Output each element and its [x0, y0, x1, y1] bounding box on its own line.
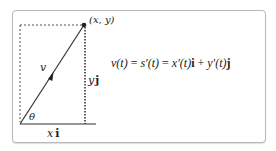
vector-label: v — [40, 61, 47, 74]
x-component-label: xi — [47, 127, 59, 140]
point-marker-icon — [82, 23, 87, 28]
vector-diagram: (x, y) v θ yj xi — [0, 0, 276, 151]
eq-plus: + — [197, 56, 204, 70]
angle-label: θ — [29, 111, 35, 122]
eq-equals-2: = — [162, 56, 169, 70]
point-label: (x, y) — [89, 14, 115, 25]
eq-term1-unit: i — [191, 56, 194, 70]
eq-term2-unit: j — [227, 56, 231, 70]
eq-lhs: v(t) — [111, 56, 128, 70]
velocity-equation: v(t) = s′(t) = x′(t)i + y′(t)j — [111, 56, 231, 71]
y-component-label: yj — [87, 74, 99, 87]
eq-equals-1: = — [131, 56, 138, 70]
eq-term1-fn: x′(t) — [172, 56, 191, 70]
eq-term2-fn: y′(t) — [207, 56, 226, 70]
eq-mid: s′(t) — [140, 56, 159, 70]
